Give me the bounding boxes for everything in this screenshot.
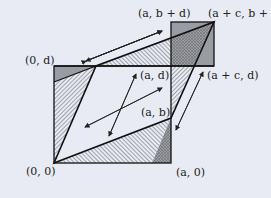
label-ab: (a, b) <box>141 106 170 119</box>
label-ac-bd: (a + c, b + d) <box>208 7 271 20</box>
label-ac-d: (a + c, d) <box>207 69 259 82</box>
label-a-bd: (a, b + d) <box>138 7 190 20</box>
label-a0: (a, 0) <box>176 166 205 179</box>
label-origin: (0, 0) <box>26 165 56 178</box>
parallelogram-area-diagram: (0, 0) (a, 0) (a, b) (0, d) (a, d) (a, b… <box>0 0 271 198</box>
label-0d: (0, d) <box>25 54 55 67</box>
label-ad: (a, d) <box>140 69 169 82</box>
